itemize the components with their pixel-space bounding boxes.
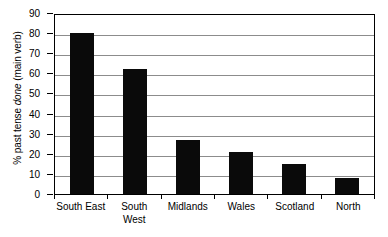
- y-tick-mark: [47, 134, 53, 135]
- y-tick: 50: [0, 88, 54, 100]
- x-tick-mark: [374, 195, 375, 199]
- bar-slot: [268, 15, 321, 194]
- y-tick-mark: [47, 73, 53, 74]
- x-axis-label-wales: Wales: [215, 200, 269, 226]
- y-tick: 10: [0, 169, 54, 181]
- x-tick-mark: [214, 195, 215, 199]
- y-tick: 70: [0, 48, 54, 60]
- x-tick-mark: [161, 195, 162, 199]
- y-tick: 60: [0, 68, 54, 80]
- y-tick-label: 90: [0, 8, 40, 20]
- y-tick-label: 70: [0, 48, 40, 60]
- x-tick-mark: [54, 195, 55, 199]
- x-axis-label-south-west: South West: [108, 200, 162, 226]
- bar-wales[interactable]: [229, 152, 253, 194]
- y-tick-mark: [47, 194, 53, 195]
- y-tick: 80: [0, 28, 54, 40]
- y-tick-mark: [47, 93, 53, 94]
- bar-slot: [215, 15, 268, 194]
- x-axis-label-south-east: South East: [54, 200, 108, 226]
- bar-midlands[interactable]: [176, 140, 200, 194]
- x-axis-label-north: North: [322, 200, 376, 226]
- y-tick-label: 0: [0, 189, 40, 201]
- bar-chart: % past tense done (main verb) 9080706050…: [0, 0, 388, 237]
- y-tick-label: 30: [0, 129, 40, 141]
- y-tick-mark: [47, 53, 53, 54]
- plot-area: [54, 14, 375, 195]
- y-tick-label: 60: [0, 68, 40, 80]
- y-tick-label: 50: [0, 88, 40, 100]
- y-tick: 40: [0, 109, 54, 121]
- y-tick-mark: [47, 114, 53, 115]
- bar-south-east[interactable]: [70, 33, 94, 194]
- y-tick-label: 80: [0, 28, 40, 40]
- bar-south-west[interactable]: [123, 69, 147, 194]
- x-axis-labels: South EastSouth WestMidlandsWalesScotlan…: [54, 200, 375, 226]
- y-tick-label: 20: [0, 149, 40, 161]
- y-tick-label: 40: [0, 109, 40, 121]
- bar-north[interactable]: [335, 178, 359, 194]
- bar-slot: [108, 15, 161, 194]
- bar-slot: [161, 15, 214, 194]
- y-tick-mark: [47, 33, 53, 34]
- bar-slot: [55, 15, 108, 194]
- y-tick: 20: [0, 149, 54, 161]
- y-tick-mark: [47, 174, 53, 175]
- bar-scotland[interactable]: [282, 164, 306, 194]
- x-axis-label-midlands: Midlands: [161, 200, 215, 226]
- x-tick-mark: [321, 195, 322, 199]
- y-tick: 0: [0, 189, 54, 201]
- x-tick-mark: [267, 195, 268, 199]
- y-tick: 30: [0, 129, 54, 141]
- y-tick-mark: [47, 13, 53, 14]
- y-axis-ticks: 9080706050403020100: [0, 14, 54, 195]
- x-axis-label-scotland: Scotland: [268, 200, 322, 226]
- bars-layer: [55, 15, 374, 194]
- x-tick-mark: [107, 195, 108, 199]
- bar-slot: [321, 15, 374, 194]
- y-tick-label: 10: [0, 169, 40, 181]
- y-tick-mark: [47, 154, 53, 155]
- y-tick: 90: [0, 8, 54, 20]
